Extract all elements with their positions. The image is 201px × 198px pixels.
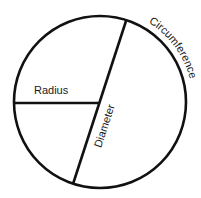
radius-label: Radius [34,84,69,96]
circle-diagram: Radius Diameter Circumference [0,0,201,198]
